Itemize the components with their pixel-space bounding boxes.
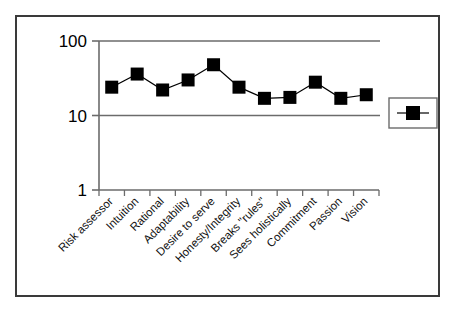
data-point-marker [182, 73, 195, 86]
data-point-marker [309, 76, 322, 89]
data-point-marker [334, 92, 347, 105]
y-tick-label: 1 [78, 181, 87, 200]
y-tick-label: 100 [59, 32, 87, 51]
y-tick-group: 100101 [59, 32, 99, 200]
legend [388, 97, 438, 129]
chart-screenshot: 100101 Risk assessorIntuitionRationalAda… [0, 0, 464, 319]
legend-marker-icon [406, 106, 420, 120]
series-markers [105, 58, 373, 105]
y-tick-label: 10 [68, 107, 87, 126]
data-point-marker [258, 92, 271, 105]
data-point-marker [283, 91, 296, 104]
data-point-marker [156, 83, 169, 96]
data-point-marker [105, 81, 118, 94]
line-chart: 100101 Risk assessorIntuitionRationalAda… [17, 17, 438, 295]
data-point-marker [131, 68, 144, 81]
data-point-marker [360, 88, 373, 101]
data-point-marker [233, 81, 246, 94]
x-tick-group [99, 190, 379, 196]
x-category-label: Vision [339, 195, 369, 225]
category-labels: Risk assessorIntuitionRationalAdaptabili… [56, 194, 370, 264]
chart-frame: 100101 Risk assessorIntuitionRationalAda… [15, 15, 440, 297]
data-point-marker [207, 58, 220, 71]
